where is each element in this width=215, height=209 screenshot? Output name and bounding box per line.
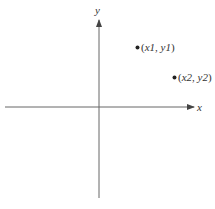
- y-axis-label: y: [94, 4, 100, 16]
- coordinate-plane: y x (x1, y1) (x2, y2): [0, 0, 215, 209]
- point-1-label: (x1, y1): [141, 41, 175, 54]
- point-2-dot: [173, 76, 177, 80]
- point-1-dot: [136, 46, 140, 50]
- x-axis-label: x: [196, 101, 202, 113]
- point-2-label: (x2, y2): [178, 71, 212, 84]
